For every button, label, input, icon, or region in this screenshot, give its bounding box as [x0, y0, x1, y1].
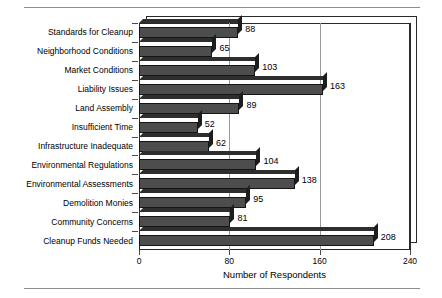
bar: [139, 84, 323, 95]
plot-area: 88651031638952621041389581208: [139, 23, 410, 250]
bar-top-face: [139, 227, 378, 231]
bar-value-label: 104: [263, 156, 278, 167]
category-tick: [132, 23, 138, 24]
bar-side-face: [323, 72, 327, 91]
category-tick: [132, 155, 138, 156]
category-label: Community Concerns: [0, 217, 133, 227]
bar-side-face: [256, 147, 260, 166]
category-tick: [132, 137, 138, 138]
x-axis-tick-label: 0: [137, 256, 142, 266]
bar-top-face: [139, 170, 299, 174]
category-tick: [132, 231, 138, 232]
category-label: Environmental Regulations: [0, 160, 133, 170]
chart-figure: Standards for CleanupNeighborhood Condit…: [0, 0, 442, 298]
bar: [139, 235, 374, 246]
x-axis-tick: [410, 250, 411, 255]
category-label: Cleanup Funds Needed: [0, 236, 133, 246]
bar-value-label: 65: [219, 43, 229, 54]
bar-value-label: 88: [245, 24, 255, 35]
top-divider-rule: [24, 7, 420, 8]
category-tick: [132, 212, 138, 213]
bar-side-face: [209, 129, 213, 148]
category-label: Demolition Monies: [0, 198, 133, 208]
bar-top-face: [139, 208, 234, 212]
bar-top-face: [139, 189, 250, 193]
bar-value-label: 81: [237, 213, 247, 224]
bar-value-label: 89: [246, 100, 256, 111]
category-label: Environmental Assessments: [0, 179, 133, 189]
bar-top-face: [139, 151, 260, 155]
category-tick: [132, 99, 138, 100]
category-label: Infrastructure Inadequate: [0, 141, 133, 151]
bar-top-face: [139, 76, 327, 80]
bar-top-face: [139, 19, 242, 23]
category-tick: [132, 193, 138, 194]
bar-side-face: [212, 34, 216, 53]
bar-value-label: 103: [262, 62, 277, 73]
bar: [139, 103, 239, 114]
bar: [139, 178, 295, 189]
bar-side-face: [238, 15, 242, 34]
bar-side-face: [198, 110, 202, 129]
bar-value-label: 52: [205, 119, 215, 130]
x-axis-tick: [139, 250, 140, 255]
bar-series: 88651031638952621041389581208: [139, 23, 410, 250]
bar-side-face: [255, 53, 259, 72]
category-tick: [132, 118, 138, 119]
bar: [139, 65, 255, 76]
category-tick: [132, 42, 138, 43]
bar-side-face: [239, 91, 243, 110]
category-tick: [132, 174, 138, 175]
x-axis-tick: [229, 250, 230, 255]
category-label: Liability Issues: [0, 84, 133, 94]
bar-top-face: [139, 133, 213, 137]
x-axis-tick-label: 80: [225, 256, 234, 266]
category-label: Insufficient Time: [0, 122, 133, 132]
bar-side-face: [295, 166, 299, 185]
x-axis-tick-label: 160: [313, 256, 327, 266]
bar-top-face: [139, 57, 259, 61]
bar-value-label: 95: [253, 194, 263, 205]
category-axis-labels: Standards for CleanupNeighborhood Condit…: [0, 23, 133, 250]
category-tick: [132, 80, 138, 81]
bar-value-label: 208: [381, 232, 396, 243]
bar: [139, 27, 238, 38]
x-axis-title: Number of Respondents: [139, 269, 410, 280]
bar-value-label: 163: [330, 81, 345, 92]
bar: [139, 122, 198, 133]
x-axis-tick: [320, 250, 321, 255]
x-axis-tick-label: 240: [403, 256, 417, 266]
bar-value-label: 62: [216, 138, 226, 149]
category-label: Market Conditions: [0, 65, 133, 75]
bar-side-face: [246, 185, 250, 204]
value-axis: 080160240: [139, 250, 410, 270]
bar-top-face: [139, 114, 202, 118]
bar: [139, 141, 209, 152]
bar-side-face: [230, 204, 234, 223]
bar-row: 208: [139, 231, 410, 250]
category-label: Standards for Cleanup: [0, 27, 133, 37]
bar-side-face: [374, 223, 378, 242]
category-label: Land Assembly: [0, 103, 133, 113]
bar-top-face: [139, 38, 216, 42]
bar: [139, 46, 212, 57]
bottom-divider-rule: [24, 288, 420, 289]
bar: [139, 216, 230, 227]
category-label: Neighborhood Conditions: [0, 46, 133, 56]
bar-top-face: [139, 95, 243, 99]
bar: [139, 159, 256, 170]
gridline-240: [410, 23, 411, 250]
bar-value-label: 138: [302, 175, 317, 186]
